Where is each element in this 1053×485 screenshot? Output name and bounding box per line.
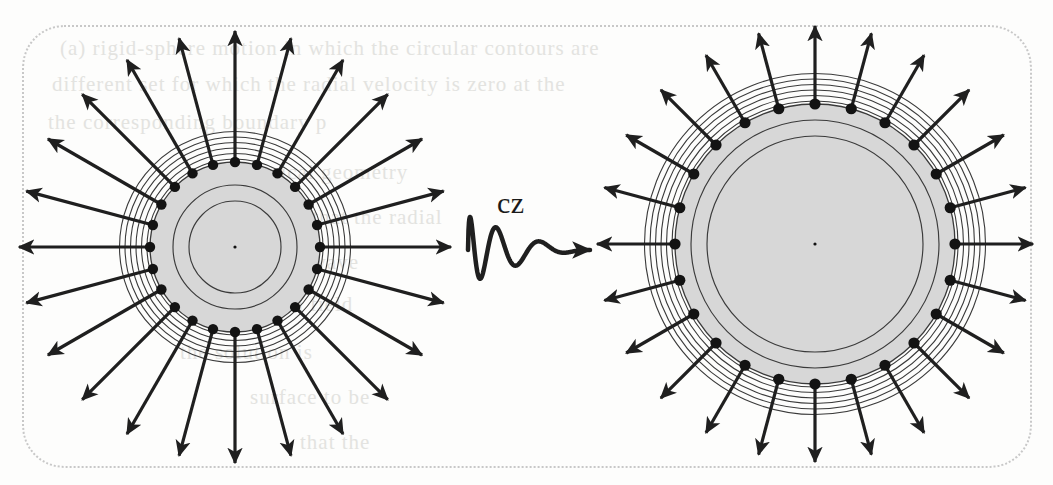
boundary-node-dot (710, 139, 721, 150)
large-radiating-sphere (597, 26, 1033, 462)
small-radiating-sphere (19, 31, 451, 463)
boundary-node-dot (156, 199, 166, 209)
radial-velocity-arrow (914, 90, 969, 145)
boundary-node-dot (312, 220, 322, 230)
boundary-node-dot (252, 324, 262, 334)
boundary-node-dot (949, 238, 960, 249)
radial-velocity-arrow (179, 38, 213, 165)
boundary-node-dot (809, 98, 820, 109)
boundary-node-dot (945, 275, 956, 286)
emitter-group (19, 26, 1033, 463)
boundary-node-dot (846, 103, 857, 114)
radial-velocity-arrow (317, 269, 444, 303)
boundary-node-dot (303, 284, 313, 294)
radial-velocity-arrow (257, 38, 291, 165)
boundary-node-dot (230, 157, 240, 167)
radial-velocity-arrow (48, 139, 161, 205)
boundary-node-dot (303, 199, 313, 209)
radial-velocity-arrow (127, 60, 193, 173)
radial-velocity-arrow (179, 329, 213, 456)
radial-velocity-arrow (82, 307, 175, 400)
wave-connector-group (468, 217, 590, 279)
radial-velocity-arrow (26, 269, 153, 303)
boundary-node-dot (908, 337, 919, 348)
radial-velocity-arrow (295, 307, 388, 400)
radial-velocity-arrow (661, 343, 716, 398)
radial-velocity-arrow (278, 60, 344, 173)
boundary-node-dot (272, 315, 282, 325)
boundary-node-dot (208, 324, 218, 334)
radial-velocity-arrow (317, 191, 444, 225)
damped-wave-arrow (468, 217, 590, 279)
radiating-spheres-diagram (0, 0, 1053, 485)
boundary-node-dot (773, 103, 784, 114)
boundary-node-dot (931, 308, 942, 319)
boundary-node-dot (908, 139, 919, 150)
boundary-node-dot (674, 202, 685, 213)
boundary-node-dot (669, 238, 680, 249)
boundary-node-dot (290, 182, 300, 192)
cz-label: cz (497, 186, 525, 220)
boundary-node-dot (879, 117, 890, 128)
boundary-node-dot (290, 302, 300, 312)
sphere-center-dot (813, 242, 816, 245)
boundary-node-dot (879, 360, 890, 371)
boundary-node-dot (739, 117, 750, 128)
boundary-node-dot (230, 327, 240, 337)
boundary-node-dot (945, 202, 956, 213)
radial-velocity-arrow (82, 94, 175, 187)
boundary-node-dot (773, 374, 784, 385)
boundary-node-dot (252, 160, 262, 170)
boundary-node-dot (148, 264, 158, 274)
radial-velocity-arrow (661, 90, 716, 145)
radial-velocity-arrow (127, 321, 193, 434)
boundary-node-dot (846, 374, 857, 385)
boundary-node-dot (931, 168, 942, 179)
boundary-node-dot (739, 360, 750, 371)
radial-velocity-arrow (309, 290, 422, 356)
boundary-node-dot (170, 182, 180, 192)
radial-velocity-arrow (48, 290, 161, 356)
sphere-center-dot (233, 245, 236, 248)
radial-velocity-arrow (26, 191, 153, 225)
boundary-node-dot (148, 220, 158, 230)
radial-velocity-arrow (295, 94, 388, 187)
boundary-node-dot (312, 264, 322, 274)
radial-velocity-arrow (257, 329, 291, 456)
boundary-node-dot (156, 284, 166, 294)
boundary-node-dot (809, 378, 820, 389)
boundary-node-dot (688, 168, 699, 179)
radial-velocity-arrow (278, 321, 344, 434)
radial-velocity-arrow (309, 139, 422, 205)
boundary-node-dot (187, 315, 197, 325)
boundary-node-dot (315, 242, 325, 252)
boundary-node-dot (170, 302, 180, 312)
boundary-node-dot (674, 275, 685, 286)
boundary-node-dot (145, 242, 155, 252)
boundary-node-dot (187, 168, 197, 178)
boundary-node-dot (710, 337, 721, 348)
boundary-node-dot (688, 308, 699, 319)
radial-velocity-arrow (914, 343, 969, 398)
figure-root: (a) rigid-sphere motion in which the cir… (0, 0, 1053, 485)
boundary-node-dot (272, 168, 282, 178)
boundary-node-dot (208, 160, 218, 170)
